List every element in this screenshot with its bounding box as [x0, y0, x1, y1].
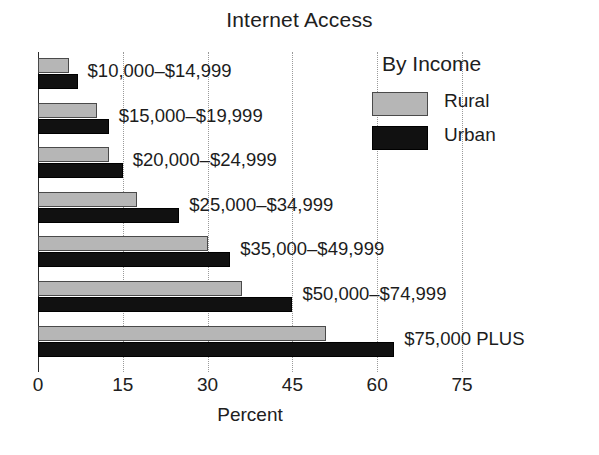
- bar-urban: [38, 297, 292, 312]
- bar-rural: [38, 281, 242, 296]
- legend-entries: RuralUrban: [372, 90, 587, 158]
- bar-rural: [38, 192, 137, 207]
- bar-urban: [38, 208, 179, 223]
- category-label: $35,000–$49,999: [240, 238, 384, 260]
- bar-group: $25,000–$34,999: [38, 192, 462, 226]
- legend-swatch-icon: [372, 126, 428, 150]
- bar-rural: [38, 236, 208, 251]
- legend-label: Rural: [444, 90, 489, 112]
- category-label: $75,000 PLUS: [404, 328, 524, 350]
- x-axis-ticks: 01530456075: [38, 372, 462, 398]
- bar-urban: [38, 74, 78, 89]
- bar-group: $50,000–$74,999: [38, 281, 462, 315]
- x-tick-label: 0: [33, 374, 44, 396]
- bar-urban: [38, 342, 394, 357]
- x-tick-label: 60: [367, 374, 388, 396]
- chart-title: Internet Access: [0, 8, 599, 32]
- x-axis-title: Percent: [38, 404, 462, 426]
- bar-rural: [38, 147, 109, 162]
- legend-item-urban[interactable]: Urban: [372, 124, 587, 158]
- category-label: $15,000–$19,999: [119, 105, 263, 127]
- category-label: $20,000–$24,999: [133, 149, 277, 171]
- chart-legend: By Income RuralUrban: [372, 52, 587, 158]
- bar-urban: [38, 252, 230, 267]
- legend-item-rural[interactable]: Rural: [372, 90, 587, 124]
- legend-label: Urban: [444, 124, 496, 146]
- bar-rural: [38, 58, 69, 73]
- internet-access-bar-chart: Internet Access $10,000–$14,999$15,000–$…: [0, 0, 599, 455]
- bar-rural: [38, 103, 97, 118]
- bar-group: $75,000 PLUS: [38, 326, 462, 360]
- category-label: $25,000–$34,999: [189, 194, 333, 216]
- category-label: $10,000–$14,999: [88, 60, 232, 82]
- bar-rural: [38, 326, 326, 341]
- x-tick-label: 45: [282, 374, 303, 396]
- category-label: $50,000–$74,999: [302, 283, 446, 305]
- bar-urban: [38, 163, 123, 178]
- x-tick-label: 15: [112, 374, 133, 396]
- x-tick-label: 75: [451, 374, 472, 396]
- bar-urban: [38, 119, 109, 134]
- legend-swatch-icon: [372, 92, 428, 116]
- legend-title: By Income: [382, 52, 587, 76]
- bar-group: $35,000–$49,999: [38, 236, 462, 270]
- x-tick-label: 30: [197, 374, 218, 396]
